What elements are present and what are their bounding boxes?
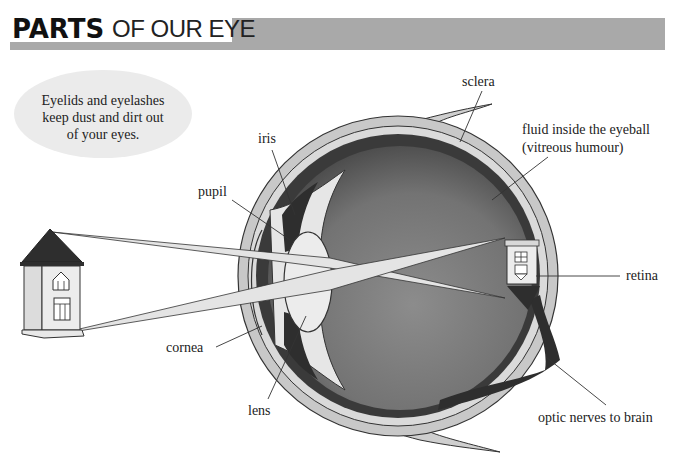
label-sclera: sclera: [462, 74, 495, 90]
label-optic-nerve: optic nerves to brain: [538, 410, 653, 426]
label-lens: lens: [248, 403, 271, 419]
label-fluid-line2: (vitreous humour): [522, 140, 623, 156]
eye-diagram: [0, 0, 679, 464]
house-window-bottom: [54, 298, 70, 320]
house-object: [20, 229, 84, 338]
label-fluid-line1: fluid inside the eyeball: [522, 122, 650, 138]
leader-optic-nerve: [546, 357, 606, 405]
label-iris: iris: [258, 131, 276, 147]
label-cornea: cornea: [166, 340, 203, 356]
house-wall-side: [24, 266, 42, 330]
label-pupil: pupil: [198, 184, 227, 200]
label-retina: retina: [626, 268, 658, 284]
